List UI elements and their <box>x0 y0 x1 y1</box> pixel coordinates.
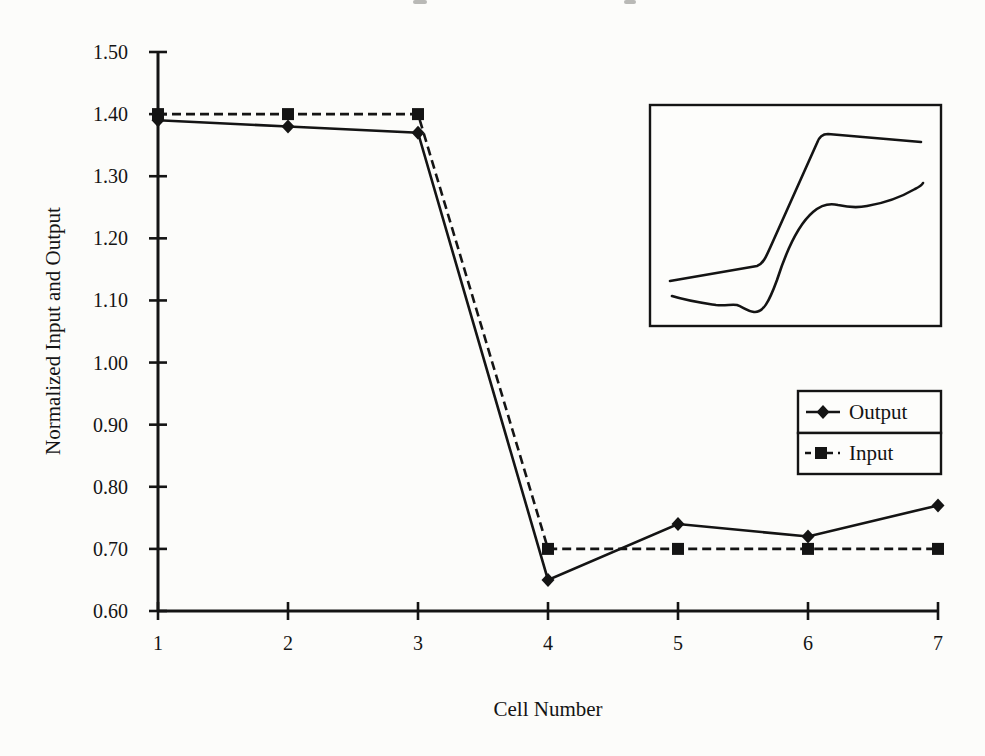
chart-canvas: 1.501.401.301.201.101.000.900.800.700.60… <box>0 0 985 756</box>
y-tick-label: 1.50 <box>93 41 128 63</box>
y-tick-label: 0.70 <box>93 538 128 560</box>
x-tick-label: 4 <box>543 632 553 654</box>
y-tick-label: 1.00 <box>93 352 128 374</box>
scanned-line-chart-figure: 1.501.401.301.201.101.000.900.800.700.60… <box>0 0 985 756</box>
output-marker <box>932 498 945 512</box>
x-axis-title: Cell Number <box>448 697 648 722</box>
y-tick-label: 1.10 <box>93 289 128 311</box>
output-marker <box>542 573 555 587</box>
x-tick-label: 3 <box>413 632 423 654</box>
input-marker <box>282 108 294 120</box>
input-marker <box>932 543 944 555</box>
y-tick-label: 0.90 <box>93 414 128 436</box>
legend-label-output: Output <box>849 400 907 425</box>
y-tick-label: 0.60 <box>93 600 128 622</box>
y-tick-label: 1.30 <box>93 165 128 187</box>
input-marker <box>542 543 554 555</box>
input-marker <box>672 543 684 555</box>
inset-box <box>650 105 941 326</box>
x-tick-label: 5 <box>673 632 683 654</box>
y-tick-label: 0.80 <box>93 476 128 498</box>
y-tick-label: 1.20 <box>93 227 128 249</box>
x-tick-label: 2 <box>283 632 293 654</box>
output-marker <box>282 120 295 134</box>
input-marker <box>802 543 814 555</box>
legend-input-marker <box>815 447 827 459</box>
y-axis-title-text: Normalized Input and Output <box>41 207 66 455</box>
x-tick-label: 1 <box>153 632 163 654</box>
output-marker <box>802 529 815 543</box>
x-tick-label: 6 <box>803 632 813 654</box>
input-marker <box>412 108 424 120</box>
y-tick-label: 1.40 <box>93 103 128 125</box>
x-tick-label: 7 <box>933 632 943 654</box>
legend-label-input: Input <box>849 441 893 466</box>
output-marker <box>672 517 685 531</box>
